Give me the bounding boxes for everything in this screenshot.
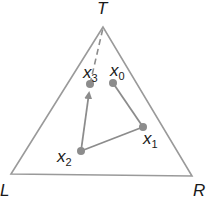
edge-x1-x2 — [81, 127, 143, 151]
vertex-label-R: R — [193, 182, 205, 199]
point-label-x2-sub: 2 — [66, 156, 72, 168]
point-label-x3: x3 — [83, 64, 98, 84]
point-x2 — [77, 147, 85, 155]
vertex-label-L: L — [0, 182, 9, 199]
simplex-diagram — [0, 0, 220, 202]
point-label-x1-base: x — [143, 129, 152, 148]
arrow-x2-to-x3 — [81, 93, 89, 151]
point-label-x0-base: x — [110, 61, 119, 80]
point-label-x1: x1 — [143, 130, 158, 150]
triangle-simplex — [11, 27, 192, 176]
edge-x0-x1 — [113, 83, 143, 127]
point-label-x3-base: x — [83, 63, 92, 82]
point-label-x1-sub: 1 — [152, 138, 158, 150]
vertex-label-T: T — [97, 0, 107, 17]
point-label-x0: x0 — [110, 62, 125, 82]
point-label-x2-base: x — [57, 147, 66, 166]
point-label-x2: x2 — [57, 148, 72, 168]
point-label-x3-sub: 3 — [92, 72, 98, 84]
point-label-x0-sub: 0 — [119, 70, 125, 82]
